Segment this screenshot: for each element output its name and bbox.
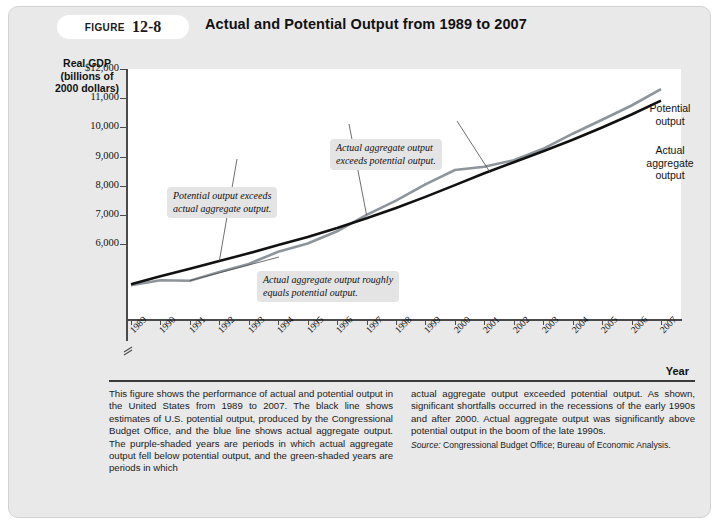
annotation-potential-exceeds-actual: Potential output exceeds actual aggregat…: [167, 187, 277, 218]
y-axis-tick-mark: [120, 157, 127, 158]
y-axis-tick-label: 9,000: [95, 150, 119, 161]
annotation-actual-exceeds-potential: Actual aggregate output exceeds potentia…: [330, 139, 442, 170]
y-axis-tick-mark: [120, 127, 127, 128]
y-axis-tick-mark: [120, 244, 127, 245]
actual-label-line1: Actual: [637, 144, 703, 157]
y-axis-labels: $12,00011,00010,0009,0008,0007,0006,000: [27, 47, 119, 347]
actual-label-line2: aggregate: [637, 157, 703, 170]
caption-column-left: This figure shows the performance of act…: [109, 388, 393, 475]
figure-badge-number: 12-8: [132, 18, 161, 36]
figure-caption: This figure shows the performance of act…: [109, 380, 695, 475]
chart-container: Real GDP (billions of 2000 dollars) $12,…: [27, 47, 695, 377]
y-axis-tick-mark: [120, 69, 127, 70]
x-axis-title: Year: [666, 365, 689, 377]
annotation-2-line1: Actual aggregate output roughly: [263, 274, 393, 287]
y-axis-line: [126, 69, 128, 341]
figure-badge-word: FIGURE: [85, 22, 125, 33]
annotation-actual-equals-potential: Actual aggregate output roughly equals p…: [257, 271, 399, 302]
potential-label-line2: output: [639, 115, 701, 128]
source-word: Source:: [411, 440, 441, 450]
figure-header: FIGURE 12-8 Actual and Potential Output …: [9, 7, 712, 45]
figure-card: FIGURE 12-8 Actual and Potential Output …: [8, 6, 711, 518]
y-axis-tick-label: 7,000: [95, 208, 119, 219]
y-axis-tick-label: 10,000: [90, 120, 119, 131]
source-text: Congressional Budget Office; Bureau of E…: [441, 440, 671, 450]
annotation-1-line2: exceeds potential output.: [336, 155, 436, 168]
annotation-1-line1: Actual aggregate output: [336, 142, 436, 155]
y-axis-tick-mark: [120, 186, 127, 187]
y-axis-tick-mark: [120, 215, 127, 216]
actual-label-line3: output: [637, 169, 703, 182]
series-label-actual-aggregate-output: Actual aggregate output: [637, 144, 703, 182]
caption-column-right: actual aggregate output exceeded potenti…: [411, 388, 695, 475]
caption-right-text: actual aggregate output exceeded potenti…: [411, 388, 695, 438]
annotation-0-line1: Potential output exceeds: [173, 190, 271, 203]
annotation-2-line2: equals potential output.: [263, 287, 393, 300]
caption-source: Source: Congressional Budget Office; Bur…: [411, 440, 695, 451]
series-label-potential-output: Potential output: [639, 102, 701, 127]
y-axis-tick-label: 6,000: [95, 237, 119, 248]
annotation-0-line2: actual aggregate output.: [173, 203, 271, 216]
potential-label-line1: Potential: [639, 102, 701, 115]
caption-divider: [109, 380, 695, 382]
y-axis-tick-label: $12,000: [85, 62, 119, 73]
axis-break-icon: [123, 343, 133, 357]
figure-number-badge: FIGURE 12-8: [57, 15, 189, 39]
y-axis-tick-label: 11,000: [91, 91, 120, 102]
figure-title: Actual and Potential Output from 1989 to…: [205, 16, 527, 32]
y-axis-tick-mark: [120, 98, 127, 99]
y-axis-tick-label: 8,000: [95, 179, 119, 190]
